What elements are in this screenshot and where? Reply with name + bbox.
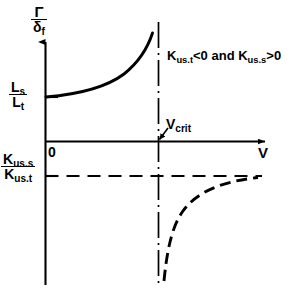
curve-lower-branch bbox=[164, 178, 258, 282]
y-tick-label-ls-over-lt: Ls Lt bbox=[9, 80, 27, 110]
lt-subscript: t bbox=[21, 101, 24, 112]
vcrit-base: V bbox=[166, 116, 175, 132]
y-axis-label-denominator-base: δ bbox=[33, 19, 42, 35]
origin-label: 0 bbox=[48, 145, 56, 159]
vcrit-subscript: crit bbox=[175, 123, 191, 134]
condition-k2-subscript: us.s bbox=[248, 55, 267, 65]
y-tick-label-kus-ratio: Kus.s Kus.t bbox=[1, 152, 35, 182]
lt-base: L bbox=[12, 94, 21, 110]
kus-s-base: K bbox=[3, 151, 13, 167]
y-axis-label-denominator: δf bbox=[31, 19, 47, 34]
ls-base: L bbox=[11, 79, 20, 95]
condition-conjunction: and bbox=[211, 48, 234, 63]
x-axis-label: V bbox=[258, 145, 268, 160]
condition-conjunction-wrap: and bbox=[208, 48, 238, 63]
vcrit-annotation: Vcrit bbox=[166, 117, 191, 131]
y-axis-label-denominator-subscript: f bbox=[42, 26, 45, 37]
condition-k1-relation: <0 bbox=[193, 48, 208, 63]
condition-k2-base: K bbox=[238, 48, 247, 63]
condition-k2-relation: >0 bbox=[266, 48, 281, 63]
condition-k1-base: K bbox=[167, 48, 176, 63]
kus-t-subscript: us.t bbox=[14, 173, 32, 184]
condition-annotation: Kus.t<0 and Kus.s>0 bbox=[167, 49, 281, 62]
y-axis-label-numerator: Γ bbox=[31, 4, 47, 19]
condition-k1-subscript: us.t bbox=[176, 55, 193, 65]
figure-container: Γ δf Ls Lt Kus.s Kus.t 0 V Vcrit Kus.t<0… bbox=[0, 0, 300, 289]
curve-upper-branch bbox=[46, 33, 153, 97]
kus-t-base: K bbox=[4, 166, 14, 182]
diagram-canvas bbox=[0, 0, 300, 289]
y-axis-label: Γ δf bbox=[31, 4, 47, 35]
